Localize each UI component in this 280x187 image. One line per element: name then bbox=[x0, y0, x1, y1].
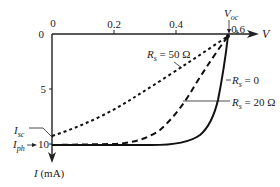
leader-rs-50 bbox=[174, 62, 182, 68]
y-tick-10: 10 bbox=[38, 138, 50, 150]
x-tick-0.6: 0.6 bbox=[231, 23, 245, 35]
iph-arrow-icon bbox=[32, 143, 37, 147]
curve-rs-0 bbox=[52, 36, 228, 145]
label-rs-20: Rs = 20 Ω bbox=[231, 96, 276, 111]
curve-rs-20 bbox=[52, 36, 228, 145]
y-tick-5: 5 bbox=[41, 83, 47, 95]
x-tick-0.2: 0.2 bbox=[107, 18, 121, 30]
isc-label: Isc bbox=[13, 124, 25, 139]
voc-label: Voc bbox=[224, 7, 239, 22]
voc-point bbox=[226, 34, 230, 38]
curve-rs-50 bbox=[52, 36, 228, 136]
iv-characteristic-chart: 0 0.2 0.4 0.6 V 0 5 10 I (mA) Voc Rs = 5… bbox=[0, 0, 280, 187]
x-tick-0: 0 bbox=[50, 17, 56, 29]
x-tick-0.4: 0.4 bbox=[169, 18, 183, 30]
label-rs-50: Rs = 50 Ω bbox=[146, 48, 191, 63]
x-axis-label: V bbox=[262, 27, 271, 41]
y-tick-0: 0 bbox=[39, 28, 45, 40]
isc-leader bbox=[29, 128, 53, 138]
iph-label: Iph bbox=[12, 138, 25, 153]
y-axis-label: I (mA) bbox=[33, 167, 65, 180]
label-rs-0: Rs = 0 bbox=[231, 74, 260, 89]
